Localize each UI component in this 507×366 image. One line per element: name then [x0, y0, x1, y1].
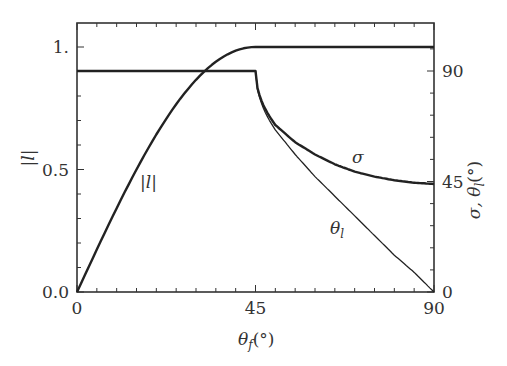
- x-tick-label: 0: [72, 298, 83, 318]
- x-axis-label: θf(°): [238, 329, 274, 352]
- tick-labels: 045900.00.51.04590: [42, 37, 464, 318]
- plot-frame: [77, 23, 434, 292]
- y-left-axis-label: |l|: [18, 150, 38, 167]
- curve-label-sigma: σ: [352, 147, 364, 167]
- curve-label-l: |l|: [140, 172, 157, 192]
- y-right-tick-label: 0: [442, 282, 453, 302]
- y-right-tick-label: 90: [442, 61, 464, 81]
- plot-border: [77, 23, 434, 292]
- y-right-axis-label: σ, θl(°): [464, 161, 487, 219]
- y-right-tick-label: 45: [442, 172, 464, 192]
- y-left-tick-label: 0.0: [42, 282, 69, 302]
- y-left-tick-label: 1.: [53, 37, 69, 57]
- curve-label-theta-l: θl: [330, 218, 344, 241]
- axis-ticks: [77, 23, 434, 292]
- y-left-tick-label: 0.5: [42, 160, 69, 180]
- x-tick-label: 45: [245, 298, 267, 318]
- chart: 045900.00.51.04590 |l| σ θl θf(°) |l| σ,…: [0, 0, 507, 366]
- curve-l: [77, 47, 434, 292]
- curves: [77, 47, 434, 292]
- curve-sigma: [77, 71, 434, 184]
